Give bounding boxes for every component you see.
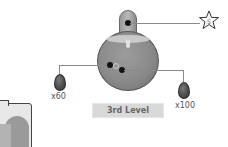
svg-text:S: S — [207, 18, 211, 25]
potion-flask[interactable] — [97, 31, 159, 91]
callout-line-top — [130, 23, 200, 24]
container-fill-rect — [0, 124, 11, 147]
star-icon[interactable]: S — [198, 10, 220, 30]
level-label-button[interactable]: 3rd Level — [92, 103, 164, 118]
callout-line-right-v — [183, 70, 184, 82]
callout-line-right-h — [124, 70, 183, 71]
left-item-quantity: x60 — [51, 92, 66, 101]
flask-drip — [126, 40, 130, 48]
callout-line-left-v — [59, 65, 60, 74]
container-icon[interactable] — [0, 103, 32, 147]
right-item-quantity: x100 — [175, 101, 195, 110]
small-circle-marker — [113, 63, 119, 69]
egg-icon[interactable] — [178, 82, 190, 99]
egg-icon[interactable] — [54, 74, 66, 91]
container-lid — [0, 100, 9, 106]
callout-line-left-h — [59, 65, 107, 66]
